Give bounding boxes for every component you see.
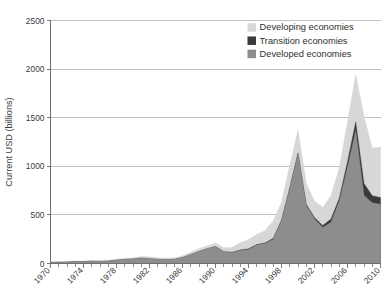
legend-label-developing-economies: Developing economies: [260, 22, 354, 32]
y-tick-labels-group: 05001000150020002500: [26, 16, 45, 269]
x-tick-label: 1978: [98, 265, 118, 285]
legend-swatch-developing-economies: [248, 23, 257, 32]
y-tick-label: 2000: [26, 64, 45, 74]
x-tick-label-group: 1970: [32, 265, 52, 285]
legend-swatch-developed-economies: [248, 50, 257, 59]
y-axis-title-group: Current USD (billions): [4, 97, 14, 186]
legend: Developing economiesTransition economies…: [248, 22, 354, 58]
x-tick-label: 2006: [329, 265, 349, 285]
x-tick-label-group: 1978: [98, 265, 118, 285]
x-tick-label: 1990: [197, 265, 217, 285]
x-tick-label: 1970: [32, 265, 52, 285]
x-tick-label-group: 1982: [131, 265, 151, 285]
legend-swatch-transition-economies: [248, 36, 257, 45]
y-tick-label: 1000: [26, 161, 45, 171]
y-tick-label: 2500: [26, 16, 45, 26]
x-tick-labels-group: 1970197419781982198619901994199820022006…: [32, 265, 382, 285]
y-tick-label: 1500: [26, 113, 45, 123]
x-tick-label: 1998: [263, 265, 283, 285]
x-tick-label-group: 1986: [164, 265, 184, 285]
x-tick-label-group: 1990: [197, 265, 217, 285]
chart-container: 05001000150020002500 1970197419781982198…: [0, 0, 391, 304]
x-tick-label: 1974: [65, 265, 85, 285]
x-tick-label-group: 1974: [65, 265, 85, 285]
x-tick-label: 1986: [164, 265, 184, 285]
area-chart: 05001000150020002500 1970197419781982198…: [0, 0, 391, 304]
x-tick-label-group: 1998: [263, 265, 283, 285]
x-tick-label: 1982: [131, 265, 151, 285]
x-tick-label: 2002: [296, 265, 316, 285]
y-axis-title: Current USD (billions): [4, 97, 14, 186]
x-tick-label: 1994: [230, 265, 250, 285]
x-tick-label-group: 1994: [230, 265, 250, 285]
series-areas-group: [51, 74, 381, 263]
legend-label-developed-economies: Developed economies: [260, 49, 352, 59]
x-tick-label-group: 2010: [362, 265, 382, 285]
y-axis-title-group: Current USD (billions): [4, 97, 14, 186]
y-tick-label: 500: [31, 210, 45, 220]
x-tick-label-group: 2002: [296, 265, 316, 285]
x-tick-marks-group: [51, 264, 381, 269]
legend-label-transition-economies: Transition economies: [260, 36, 348, 46]
x-tick-label-group: 2006: [329, 265, 349, 285]
x-tick-label: 2010: [362, 265, 382, 285]
